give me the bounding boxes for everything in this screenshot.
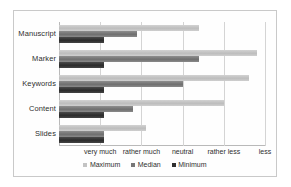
bar-group-keywords [59, 72, 265, 97]
x-axis-tick-labels: very muchrather muchneutralrather lessle… [59, 148, 269, 160]
legend-swatch-icon-maximum [83, 163, 87, 167]
legend-label: Median [138, 161, 161, 168]
bar-row [59, 137, 265, 143]
bar-row [59, 112, 265, 118]
bar-group-slides [59, 121, 265, 146]
bar-manuscript-minimum [59, 37, 104, 43]
bar-row [59, 87, 265, 93]
chart-legend: MaximumMedianMinimum [14, 161, 276, 168]
legend-swatch-icon-median [131, 163, 135, 167]
legend-label: Minimum [178, 161, 206, 168]
x-tick-label-rather-much: rather much [123, 148, 160, 155]
plot-area [59, 22, 265, 146]
legend-swatch-icon-minimum [172, 163, 176, 167]
bar-group-manuscript [59, 22, 265, 47]
category-label-slides: Slides [35, 129, 56, 138]
x-tick-label-less: less [259, 148, 271, 155]
legend-item-maximum[interactable]: Maximum [83, 161, 120, 168]
bar-content-minimum [59, 112, 104, 118]
legend-item-median[interactable]: Median [131, 161, 160, 168]
bar-row [59, 62, 265, 68]
y-axis-category-labels: ManuscriptMarkerKeywordsContentSlides [14, 22, 56, 146]
bar-row [59, 37, 265, 43]
category-label-keywords: Keywords [22, 79, 56, 88]
bar-slides-minimum [59, 137, 104, 143]
x-tick-label-neutral: neutral [172, 148, 193, 155]
bar-keywords-minimum [59, 87, 104, 93]
x-tick-label-rather-less: rather less [207, 148, 240, 155]
bar-group-marker [59, 47, 265, 72]
category-label-marker: Marker [32, 54, 56, 63]
bar-group-content [59, 96, 265, 121]
legend-item-minimum[interactable]: Minimum [172, 161, 207, 168]
category-label-content: Content [29, 104, 56, 113]
x-tick-label-very-much: very much [84, 148, 116, 155]
chart-frame: ManuscriptMarkerKeywordsContentSlides ve… [13, 10, 277, 177]
legend-label: Maximum [90, 161, 120, 168]
bar-marker-minimum [59, 62, 104, 68]
category-label-manuscript: Manuscript [18, 29, 56, 38]
gridline-less [265, 22, 266, 146]
